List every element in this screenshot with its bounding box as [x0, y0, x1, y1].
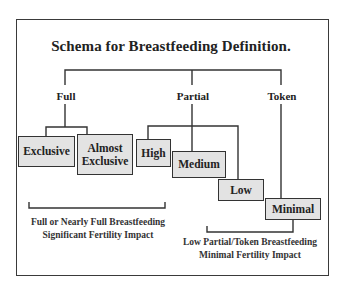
caption-line-1: Full or Nearly Full Breastfeeding — [20, 216, 176, 229]
group-caption-full: Full or Nearly Full Breastfeeding Signif… — [20, 216, 176, 241]
box-almost-exclusive: Almost Exclusive — [77, 134, 133, 175]
box-label: Almost Exclusive — [81, 142, 129, 168]
box-label: Minimal — [272, 203, 314, 216]
box-label: Exclusive — [23, 145, 70, 158]
box-label: Medium — [178, 158, 220, 171]
category-partial: Partial — [170, 90, 216, 102]
group-caption-low: Low Partial/Token Breastfeeding Minimal … — [172, 236, 328, 261]
box-minimal: Minimal — [265, 198, 321, 220]
box-exclusive: Exclusive — [18, 136, 75, 167]
box-medium: Medium — [172, 151, 226, 178]
caption-line-2: Significant Fertility Impact — [20, 229, 176, 242]
box-high: High — [136, 139, 171, 167]
box-label: Low — [230, 184, 252, 197]
caption-line-1: Low Partial/Token Breastfeeding — [172, 236, 328, 249]
category-token: Token — [262, 90, 302, 102]
caption-line-2: Minimal Fertility Impact — [172, 249, 328, 262]
box-low: Low — [218, 179, 264, 201]
category-full: Full — [48, 90, 84, 102]
box-label: High — [141, 147, 165, 160]
